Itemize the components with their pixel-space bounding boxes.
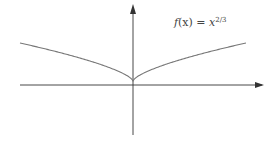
function-graph: f(x) = x2/3 — [0, 0, 273, 142]
y-axis-arrow-icon — [130, 4, 136, 14]
function-exponent: 2/3 — [215, 16, 226, 24]
x-axis-arrow-icon — [255, 82, 264, 88]
plot-canvas — [0, 0, 273, 142]
function-argument: (x) = — [178, 16, 209, 29]
function-label: f(x) = x2/3 — [174, 16, 227, 29]
